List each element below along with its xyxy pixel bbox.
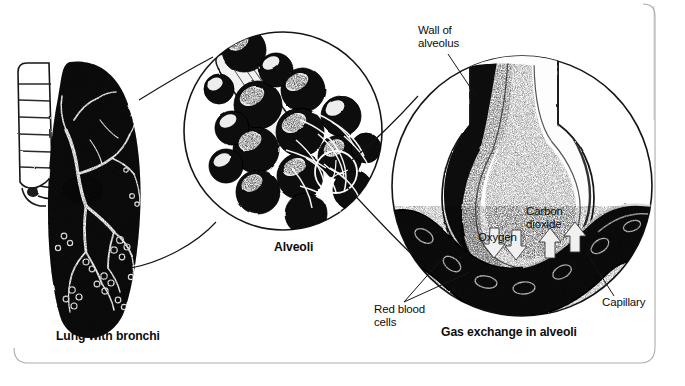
callout-label-capillary: Capillary: [602, 296, 645, 309]
callout-label-wall-of-alveolus: Wall of alveolus: [418, 24, 459, 49]
respiratory-system-diagram: Wall of alveolus Carbon dioxide Oxygen R…: [0, 0, 685, 386]
lung-illustration: [18, 58, 148, 342]
panel-caption-gas-exchange-in-alveoli: Gas exchange in alveoli: [441, 326, 577, 339]
callout-label-red-blood-cells: Red blood cells: [374, 303, 425, 328]
callout-label-carbon-dioxide: Carbon dioxide: [526, 205, 563, 230]
callout-label-oxygen: Oxygen: [478, 231, 517, 244]
panel-caption-alveoli: Alveoli: [274, 241, 313, 254]
alveoli-magnifier: [184, 28, 382, 235]
panel-caption-lung-with-bronchi: Lung with bronchi: [56, 330, 160, 343]
bronchial-tree: [48, 58, 148, 342]
gas-exchange-magnifier: [388, 53, 654, 318]
